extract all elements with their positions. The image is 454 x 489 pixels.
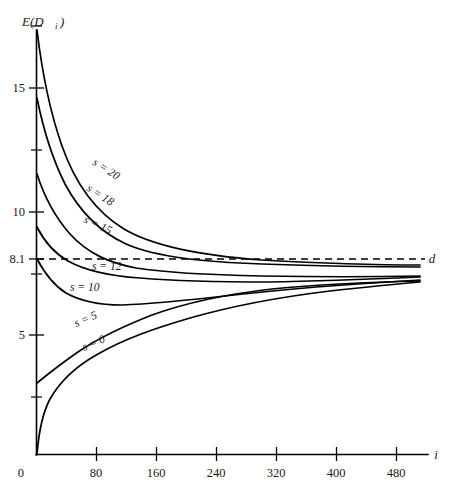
x-tick-label-320: 320 bbox=[267, 466, 286, 480]
y-axis-title-subscript: i bbox=[55, 21, 58, 31]
x-tick-label-160: 160 bbox=[147, 466, 166, 480]
curve-label-s-5: s = 5 bbox=[72, 308, 99, 328]
y-tick-label-0: 0 bbox=[18, 466, 24, 480]
x-axis-tick-labels: 80 160 240 320 400 480 i bbox=[90, 447, 438, 480]
curve-label-s-0: s = 0 bbox=[80, 332, 107, 352]
y-axis-title: E(D i ) bbox=[21, 14, 64, 31]
y-axis-title-main: E(D bbox=[21, 14, 44, 29]
y-tick-label-5: 5 bbox=[19, 328, 25, 342]
asymptote-label-d: d bbox=[429, 251, 436, 266]
axes-group bbox=[36, 30, 428, 455]
curve-label-s-10: s = 10 bbox=[70, 281, 100, 293]
y-tick-label-15: 15 bbox=[13, 81, 26, 95]
curve-label-s-20: s = 20 bbox=[91, 156, 122, 182]
chart-canvas: 15 10 8.1 5 0 E(D i ) 80 160 240 320 4 bbox=[0, 0, 454, 489]
curve-label-s-18: s = 18 bbox=[85, 182, 116, 208]
curve-label-s-15: s = 15 bbox=[82, 213, 114, 236]
y-tick-label-10: 10 bbox=[13, 205, 26, 219]
x-tick-label-80: 80 bbox=[90, 466, 103, 480]
x-tick-label-480: 480 bbox=[387, 466, 406, 480]
curve-s-0 bbox=[37, 282, 420, 454]
x-tick-label-400: 400 bbox=[327, 466, 346, 480]
curves-group bbox=[37, 30, 420, 454]
y-tick-label-8-1: 8.1 bbox=[9, 252, 25, 266]
curve-label-s-12: s = 12 bbox=[92, 260, 122, 272]
y-axis-tick-labels: 15 10 8.1 5 0 bbox=[9, 81, 25, 480]
x-tick-label-240: 240 bbox=[207, 466, 226, 480]
chart-figure: 15 10 8.1 5 0 E(D i ) 80 160 240 320 4 bbox=[0, 0, 454, 489]
x-axis-title: i bbox=[434, 447, 438, 462]
y-axis-title-close: ) bbox=[59, 14, 64, 29]
curve-s-20 bbox=[37, 30, 420, 265]
